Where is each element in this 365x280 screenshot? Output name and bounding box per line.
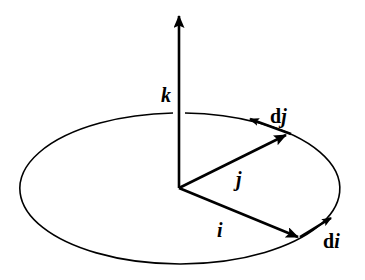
j-vector xyxy=(179,135,286,188)
label-dj: dj xyxy=(270,105,287,128)
label-j: j xyxy=(233,168,242,191)
frame-rotation-diagram: k j i dj di xyxy=(0,0,365,280)
i-vector xyxy=(179,188,298,237)
label-i: i xyxy=(217,219,223,241)
label-di: di xyxy=(323,230,340,252)
label-k: k xyxy=(161,84,171,106)
